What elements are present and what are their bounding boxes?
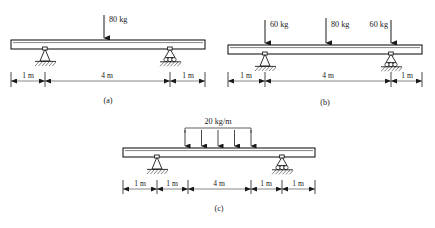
panel-c-support-pin: [147, 155, 168, 174]
panel-a-dimensions: 1 m 4 m 1 m: [11, 71, 205, 88]
panel-a-load-0-label: 80 kg: [109, 15, 127, 24]
panel-b-load-1-label: 80 kg: [331, 20, 349, 29]
panel-b-dim-2-label: 1 m: [401, 71, 413, 80]
panel-c-dim-3-label: 1 m: [260, 179, 272, 188]
panel-b-dimensions: 1 m 4 m 1 m: [228, 71, 422, 88]
panel-b: 60 kg 80 kg 60 kg: [228, 18, 422, 107]
panel-a-caption: (a): [103, 96, 112, 105]
panel-c: 20 kg/m: [123, 117, 315, 213]
beam-diagram-figure: 80 kg: [0, 0, 435, 228]
panel-c-load-0: 20 kg/m: [185, 117, 251, 146]
panel-c-dimensions: 1 m 1 m 4 m 1 m 1 m: [123, 179, 315, 195]
panel-b-caption: (b): [320, 98, 330, 107]
panel-a-support-pin: [35, 47, 56, 66]
panel-b-support-pin: [255, 52, 276, 71]
panel-c-dim-4-label: 1 m: [292, 179, 304, 188]
panel-c-dim-0-label: 1 m: [134, 179, 146, 188]
panel-a-support-roller: [160, 47, 181, 66]
panel-c-support-roller: [272, 155, 293, 174]
panel-a: 80 kg: [11, 15, 205, 105]
panel-b-dim-1-label: 4 m: [322, 71, 334, 80]
panel-b-load-2: 60 kg: [370, 20, 391, 43]
panel-b-support-roller: [381, 52, 402, 71]
panel-a-dim-2-label: 1 m: [182, 71, 194, 80]
panel-a-dim-1-label: 4 m: [101, 71, 113, 80]
panel-b-load-1: 80 kg: [326, 18, 349, 43]
panel-a-load-0: 80 kg: [104, 15, 127, 38]
panel-c-load-0-label: 20 kg/m: [204, 117, 232, 126]
panel-c-dim-2-label: 4 m: [213, 179, 225, 188]
panel-b-load-0-label: 60 kg: [270, 20, 288, 29]
panel-a-dim-0-label: 1 m: [22, 71, 34, 80]
panel-c-beam: [123, 148, 315, 157]
panel-b-load-2-label: 60 kg: [370, 20, 388, 29]
panel-b-load-0: 60 kg: [265, 20, 288, 43]
figure-canvas: 80 kg: [0, 0, 435, 228]
panel-c-caption: (c): [214, 204, 223, 213]
panel-a-beam: [11, 40, 205, 49]
panel-c-dim-1-label: 1 m: [166, 179, 178, 188]
panel-b-dim-0-label: 1 m: [240, 71, 252, 80]
